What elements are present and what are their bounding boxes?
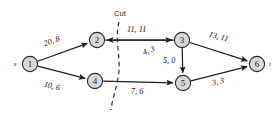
- edge-label-1-4: 10, 6: [43, 80, 62, 93]
- network-diagram-canvas: Cut 1s23456t 20, 810, 611, 114, 35, 013,…: [0, 0, 279, 115]
- node-label-4: 4: [93, 76, 98, 86]
- edge-label-1-2: 20, 8: [42, 34, 60, 48]
- edge-label-4-5: 7, 6: [131, 87, 144, 96]
- terminal-label-t: t: [269, 60, 272, 68]
- edge-labels-group: 20, 810, 611, 114, 35, 013, 117, 63, 3: [42, 25, 229, 96]
- node-label-5: 5: [181, 78, 186, 88]
- edge-1-to-4: [38, 66, 85, 78]
- cut-dashed-line: [111, 22, 119, 110]
- edge-label-3-2: 4, 3: [141, 44, 156, 57]
- node-label-3: 3: [180, 35, 185, 45]
- edge-4-to-5: [103, 81, 173, 83]
- edge-3-to-5: [182, 48, 183, 73]
- edge-label-3-5: 5, 0: [163, 56, 175, 65]
- node-label-2: 2: [95, 35, 100, 45]
- terminal-label-s: s: [14, 60, 17, 68]
- edge-label-5-6: 3, 3: [210, 76, 225, 88]
- node-label-1: 1: [28, 59, 33, 69]
- edge-label-2-3: 11, 11: [127, 25, 146, 34]
- cut-group: Cut: [111, 9, 127, 111]
- flow-network-figure: Cut 1s23456t 20, 810, 611, 114, 35, 013,…: [0, 0, 279, 115]
- edge-3-to-6: [190, 42, 247, 60]
- cut-label: Cut: [114, 9, 127, 18]
- edges-group: [38, 40, 248, 83]
- edge-label-3-6: 13, 11: [208, 30, 230, 44]
- node-label-6: 6: [255, 59, 260, 69]
